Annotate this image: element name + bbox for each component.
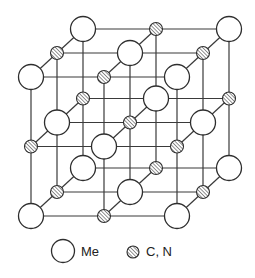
me-atom bbox=[71, 17, 96, 42]
lattice-atoms bbox=[19, 17, 242, 229]
cn-atom-symbol-icon bbox=[127, 246, 139, 258]
legend-label-me: Me bbox=[81, 244, 99, 259]
cn-atom bbox=[77, 92, 90, 105]
me-atom bbox=[118, 41, 143, 66]
me-atom bbox=[165, 204, 190, 229]
cn-atom bbox=[150, 23, 163, 36]
cn-atom bbox=[171, 140, 184, 153]
me-atom bbox=[165, 65, 190, 90]
crystal-lattice-diagram: Me C, N bbox=[0, 0, 255, 278]
cn-atom bbox=[124, 116, 137, 129]
cn-atom bbox=[197, 186, 210, 199]
cn-atom bbox=[51, 47, 64, 60]
me-atom bbox=[191, 110, 216, 135]
cn-atom bbox=[51, 186, 64, 199]
cn-atom bbox=[197, 47, 210, 60]
me-atom bbox=[118, 180, 143, 205]
me-atom-symbol-icon bbox=[52, 240, 75, 263]
me-atom bbox=[92, 134, 117, 159]
cn-atom bbox=[98, 71, 111, 84]
cn-atom bbox=[25, 140, 38, 153]
legend-label-cn: C, N bbox=[146, 244, 172, 259]
me-atom bbox=[19, 65, 44, 90]
legend: Me C, N bbox=[52, 240, 173, 263]
cn-atom bbox=[98, 210, 111, 223]
legend-item-cn: C, N bbox=[127, 244, 172, 259]
cn-atom bbox=[150, 162, 163, 175]
me-atom bbox=[217, 17, 242, 42]
me-atom bbox=[217, 156, 242, 181]
legend-item-me: Me bbox=[52, 240, 100, 263]
me-atom bbox=[45, 110, 70, 135]
me-atom bbox=[19, 204, 44, 229]
cn-atom bbox=[223, 92, 236, 105]
me-atom bbox=[71, 156, 96, 181]
me-atom bbox=[144, 86, 169, 111]
